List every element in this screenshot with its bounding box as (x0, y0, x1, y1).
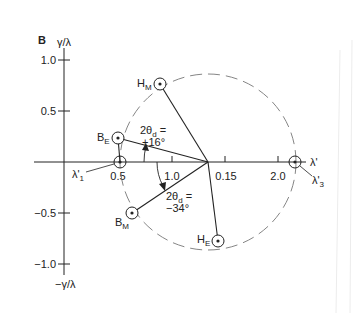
x-tick-label: 1.0 (164, 170, 179, 182)
scan-artifact (336, 50, 340, 313)
y-tick-label: −1.0 (34, 258, 56, 270)
label-hm: HM (137, 77, 152, 92)
point-bm (126, 207, 138, 219)
angle-arc-negative (157, 162, 163, 186)
angle-label-negative-line2: −34° (166, 202, 189, 214)
point-hm (154, 78, 166, 90)
y-axis-top-label: γ/λ (57, 36, 72, 48)
point-be (112, 132, 124, 144)
y-tick-label: 1.0 (41, 54, 56, 66)
label-bm: BM (115, 216, 129, 231)
y-axis-bottom-label: −γ/λ (55, 278, 76, 290)
label-l3: λ'3 (312, 174, 325, 189)
angle-label-positive-line2: +16° (142, 136, 165, 148)
label-he: HE (197, 233, 210, 248)
y-tick-label: −0.5 (34, 207, 56, 219)
point-he (212, 235, 224, 247)
x-axis-end-label: λ' (310, 156, 318, 168)
polarization-diagram: B γ/λ −γ/λ 1.0 0.5 −0.5 −1.0 0.5 1.0 0.1… (0, 0, 354, 313)
label-l1: λ'1 (72, 168, 85, 183)
x-tick-label: 0.5 (110, 170, 125, 182)
scan-artifact (350, 40, 352, 313)
y-tick-label: 0.5 (41, 105, 56, 117)
y-axis: γ/λ −γ/λ 1.0 0.5 −0.5 −1.0 (34, 36, 76, 290)
arrowhead-icon (159, 182, 166, 191)
panel-label: B (38, 34, 46, 46)
x-tick-label: 0.15 (215, 170, 236, 182)
x-tick-label: 2.0 (270, 170, 285, 182)
label-be: BE (97, 131, 110, 146)
